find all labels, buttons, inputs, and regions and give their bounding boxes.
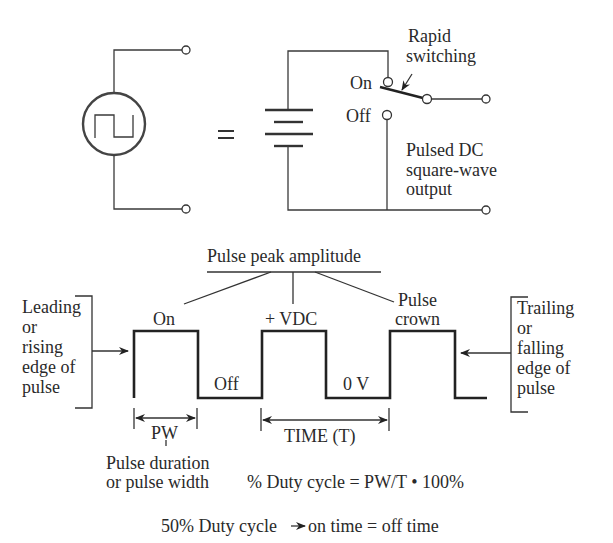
on-label: On (153, 309, 175, 329)
trailing-edge-label: Trailing or falling edge of pulse (517, 298, 574, 398)
duty-note-right: on time = off time (308, 516, 439, 536)
square-wave-source-icon (83, 46, 190, 213)
zero-volt-label: 0 V (343, 374, 369, 394)
off-label: Off (214, 374, 239, 394)
pulse-crown-label-line1: Pulse (398, 290, 437, 310)
square-waveform (134, 331, 487, 398)
pulse-peak-amplitude-title: Pulse peak amplitude (207, 246, 361, 266)
svg-text:or: or (517, 318, 532, 338)
leading-edge-label: Leading or rising edge of pulse (22, 297, 81, 397)
svg-text:edge of: edge of (517, 358, 570, 378)
battery-icon (265, 51, 490, 214)
duty-cycle-formula: % Duty cycle = PW/T • 100% (247, 472, 464, 492)
pulse-duration-line2: or pulse width (106, 472, 209, 492)
vdc-label: + VDC (265, 309, 317, 329)
switch-off-label: Off (346, 106, 371, 126)
output-label-line2: square-wave (406, 160, 497, 180)
pulse-duration-line1: Pulse duration (106, 453, 210, 473)
svg-text:pulse: pulse (517, 378, 555, 398)
svg-text:or: or (22, 317, 37, 337)
svg-text:Trailing: Trailing (517, 298, 574, 318)
duty-note-left: 50% Duty cycle (161, 516, 277, 536)
pulse-diagram: Rapid switching On Off Pulsed DC square-… (0, 0, 613, 543)
rapid-label: Rapid (408, 26, 451, 46)
svg-text:pulse: pulse (22, 377, 60, 397)
output-label-line3: output (406, 179, 452, 199)
pw-label: PW (151, 423, 178, 443)
svg-text:rising: rising (22, 337, 63, 357)
switching-label: switching (406, 46, 476, 66)
svg-text:edge of: edge of (22, 357, 75, 377)
equals-sign (218, 131, 234, 138)
time-label: TIME (T) (284, 426, 355, 447)
svg-text:Leading: Leading (22, 297, 81, 317)
output-label-line1: Pulsed DC (406, 140, 484, 160)
pulse-crown-label-line2: crown (395, 309, 440, 329)
switch-on-label: On (350, 73, 372, 93)
svg-text:falling: falling (517, 338, 564, 358)
